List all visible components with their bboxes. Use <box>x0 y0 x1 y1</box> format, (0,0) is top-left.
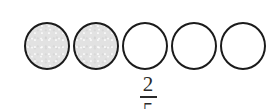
fraction-part-2[interactable] <box>73 22 119 70</box>
fraction-part-4[interactable] <box>171 22 217 70</box>
fraction-part-1[interactable] <box>24 22 70 70</box>
fraction-label: 2 5 <box>126 74 170 109</box>
circle-row <box>24 21 266 71</box>
fraction-part-5[interactable] <box>220 22 266 70</box>
fraction-denominator: 5 <box>143 100 154 109</box>
fraction-numerator: 2 <box>143 74 154 94</box>
fraction-part-3[interactable] <box>122 22 168 70</box>
fraction-model-figure: 2 5 <box>0 0 277 110</box>
fraction-bar <box>140 96 157 98</box>
